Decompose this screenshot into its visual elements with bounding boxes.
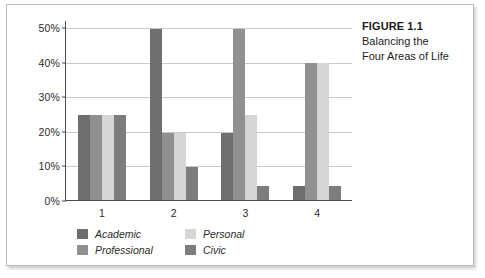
bar-group bbox=[78, 21, 126, 200]
bar-academic bbox=[78, 115, 90, 200]
bar-group bbox=[221, 21, 269, 200]
y-axis-tick-mark bbox=[62, 201, 66, 202]
plot-canvas: 0%10%20%30%40%50% 1234 bbox=[65, 21, 352, 201]
legend-label: Professional bbox=[95, 244, 153, 256]
chart-legend: AcademicPersonalProfessionalCivic bbox=[77, 226, 297, 258]
bar-professional bbox=[162, 133, 174, 201]
legend-swatch-professional bbox=[77, 245, 88, 255]
legend-label: Civic bbox=[203, 244, 226, 256]
x-axis-tick-label: 3 bbox=[210, 207, 282, 219]
legend-swatch-civic bbox=[185, 245, 196, 255]
legend-label: Academic bbox=[95, 228, 141, 240]
bar-group bbox=[293, 21, 341, 200]
legend-item-academic: Academic bbox=[77, 228, 185, 240]
y-axis-tick-label: 20% bbox=[38, 126, 60, 138]
bars-layer bbox=[66, 21, 352, 200]
y-axis-tick-label: 30% bbox=[38, 91, 60, 103]
bar-personal bbox=[174, 133, 186, 201]
x-axis-tick-label: 1 bbox=[66, 207, 138, 219]
caption-body: Balancing the Four Areas of Life bbox=[362, 34, 468, 64]
bar-academic bbox=[293, 186, 305, 200]
bar-academic bbox=[221, 133, 233, 201]
bar-personal bbox=[245, 115, 257, 200]
caption-title: FIGURE 1.1 bbox=[362, 19, 468, 34]
bar-personal bbox=[317, 63, 329, 200]
legend-swatch-personal bbox=[185, 229, 196, 239]
bar-chart: 0%10%20%30%40%50% 1234 AcademicPersonalP… bbox=[7, 5, 357, 265]
bar-civic bbox=[114, 115, 126, 200]
bar-professional bbox=[305, 63, 317, 200]
x-axis-tick-label: 4 bbox=[281, 207, 353, 219]
legend-item-personal: Personal bbox=[185, 228, 293, 240]
bar-group bbox=[150, 21, 198, 200]
y-axis-tick-label: 50% bbox=[38, 22, 60, 34]
figure-caption: FIGURE 1.1 Balancing the Four Areas of L… bbox=[362, 19, 468, 64]
plot-area: 0%10%20%30%40%50% 1234 bbox=[65, 21, 352, 201]
caption-line-2: Four Areas of Life bbox=[362, 49, 468, 64]
figure-frame: 0%10%20%30%40%50% 1234 AcademicPersonalP… bbox=[6, 4, 474, 266]
x-axis-tick-label: 2 bbox=[138, 207, 210, 219]
caption-line-1: Balancing the bbox=[362, 34, 468, 49]
bar-civic bbox=[257, 186, 269, 200]
bar-civic bbox=[186, 167, 198, 200]
bar-professional bbox=[233, 29, 245, 200]
legend-label: Personal bbox=[203, 228, 244, 240]
legend-swatch-academic bbox=[77, 229, 88, 239]
y-axis-tick-label: 0% bbox=[44, 195, 60, 207]
legend-item-professional: Professional bbox=[77, 244, 185, 256]
bar-personal bbox=[102, 115, 114, 200]
y-axis-tick-label: 10% bbox=[38, 160, 60, 172]
legend-item-civic: Civic bbox=[185, 244, 293, 256]
bar-civic bbox=[329, 186, 341, 200]
bar-professional bbox=[90, 115, 102, 200]
y-axis-tick-label: 40% bbox=[38, 57, 60, 69]
bar-academic bbox=[150, 29, 162, 200]
